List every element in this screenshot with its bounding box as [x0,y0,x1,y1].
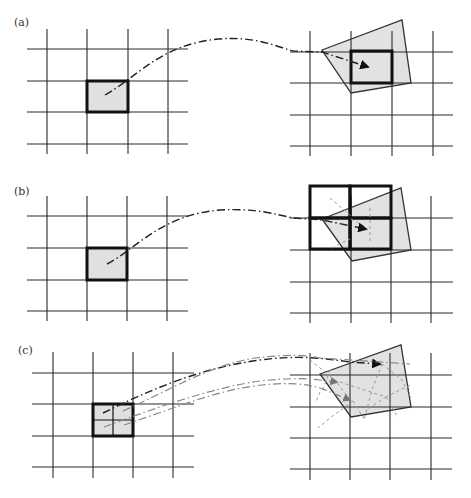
mapped-quad-fill [320,345,411,417]
panel-b [27,186,453,323]
panel-a [27,20,453,156]
diagram-canvas [0,0,471,498]
faint-dashed-line [318,401,353,428]
panel-c [32,345,452,480]
source-cell-fill [87,81,128,112]
panel-label-a: (a) [14,16,29,29]
panel-label-c: (c) [18,344,33,357]
panel-label-b: (b) [14,185,30,198]
figure-root: (a) (b) (c) [0,0,471,498]
